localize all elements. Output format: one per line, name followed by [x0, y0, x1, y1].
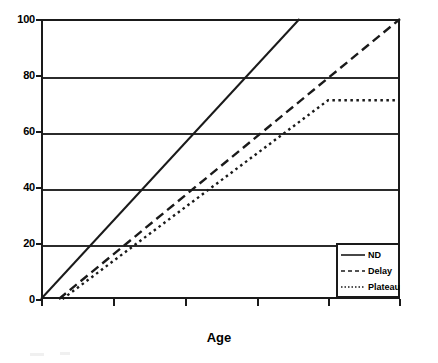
x-axis-tick-2 — [185, 299, 187, 306]
series-line-nd — [41, 19, 299, 299]
x-axis-title: Age — [0, 330, 438, 345]
chart-legend: ND Delay Plateau — [336, 243, 400, 298]
legend-item-delay: Delay — [338, 263, 398, 279]
x-axis-tick-4 — [328, 299, 330, 306]
scan-artifact — [60, 352, 70, 355]
y-axis-label-100: 100 — [1, 14, 35, 25]
x-axis-tick-0 — [41, 299, 43, 306]
scan-artifact — [30, 353, 44, 356]
y-axis-label-20: 20 — [1, 238, 35, 249]
x-axis-tick-3 — [257, 299, 259, 306]
line-chart-figure: 100 80 60 40 20 0 ND — [0, 0, 438, 363]
legend-label-nd: ND — [368, 251, 381, 260]
legend-swatch-dotted-icon — [340, 282, 366, 292]
legend-item-nd: ND — [338, 247, 398, 263]
legend-label-delay: Delay — [368, 267, 392, 276]
legend-swatch-solid-icon — [340, 250, 366, 260]
legend-label-plateau: Plateau — [368, 283, 400, 292]
legend-swatch-dashed-icon — [340, 266, 366, 276]
y-axis-label-60: 60 — [1, 126, 35, 137]
y-axis-label-80: 80 — [1, 70, 35, 81]
y-axis-label-0: 0 — [1, 294, 35, 305]
x-axis-tick-5 — [399, 299, 401, 306]
y-axis-label-40: 40 — [1, 182, 35, 193]
x-axis-tick-1 — [113, 299, 115, 306]
legend-item-plateau: Plateau — [338, 279, 398, 295]
